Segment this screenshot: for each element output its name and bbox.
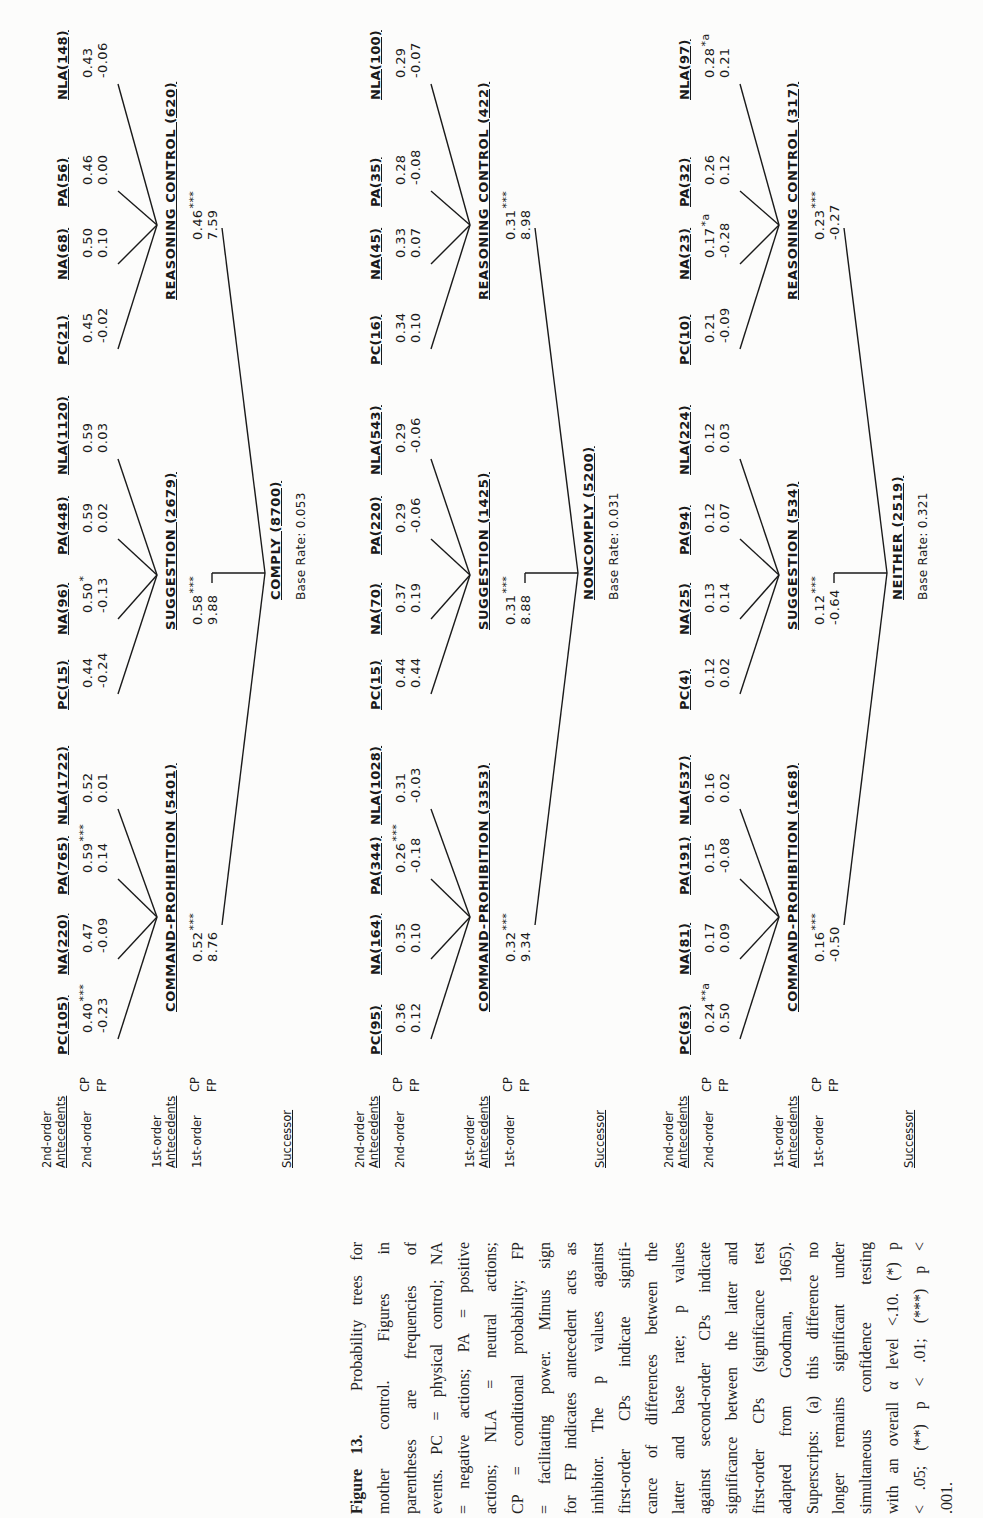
first-order-values: 0.12***-0.64	[808, 576, 842, 625]
cp-number: 0.52	[190, 931, 205, 962]
header-line: Antecedents	[164, 1096, 178, 1168]
cp-value: 0.31	[389, 767, 408, 803]
branch-line	[431, 879, 470, 917]
fp-value: -0.08	[717, 837, 732, 873]
fp-value: 0.44	[408, 656, 423, 688]
caption-line: events. PC = physical control; NA	[424, 1242, 451, 1514]
caption-line: for FP indicates antecedent acts as	[558, 1242, 585, 1514]
significance-superscript: *	[77, 576, 90, 582]
base-rate: Base Rate: 0.031	[607, 492, 621, 600]
second-order-values: 0.330.07	[389, 226, 423, 258]
branch-line	[740, 917, 779, 1039]
cp-value: 0.21	[698, 307, 717, 343]
first-order-values: 0.31***8.88	[499, 576, 533, 625]
cp-value: 0.43	[76, 42, 95, 78]
second-order-values: 0.440.44	[389, 656, 423, 688]
branch-line	[740, 191, 779, 225]
cp-number: 0.37	[393, 582, 408, 613]
fp-value: 0.19	[408, 581, 423, 613]
connector-line	[535, 573, 578, 925]
first-order-values: 0.23***-0.27	[808, 191, 842, 240]
second-order-antecedent-label: PA(344)	[368, 836, 383, 895]
cp-number: 0.40	[80, 1002, 95, 1033]
fp-value: 8.98	[518, 191, 533, 240]
second-order-values: 0.26***-0.18	[389, 824, 423, 873]
cp-value: 0.50	[76, 226, 95, 258]
first-order-antecedent-label: COMMAND-PROHIBITION (3353)	[476, 763, 491, 1012]
branch-line	[118, 809, 157, 917]
significance-superscript: ***	[77, 824, 90, 842]
second-order-antecedent-label: PC(15)	[368, 660, 383, 710]
cp-value: 0.12	[698, 501, 717, 533]
second-order-antecedent-label: NA(220)	[55, 914, 70, 975]
second-order-antecedent-label: PC(21)	[55, 315, 70, 365]
cp-number: 0.24	[702, 1002, 717, 1033]
significance-superscript: **a	[699, 983, 712, 1002]
first-order-values: 0.46***7.59	[186, 191, 220, 240]
second-order-values: 0.40***-0.23	[76, 984, 110, 1033]
cp-value: 0.58***	[186, 576, 205, 625]
cp-number: 0.31	[503, 209, 518, 240]
second-order-antecedent-label: PC(4)	[677, 669, 692, 710]
second-order-values: 0.590.03	[76, 421, 110, 453]
cp-value: 0.40***	[76, 984, 95, 1033]
successor-label: COMPLY (8700)	[268, 481, 283, 600]
cp-value: 0.12	[698, 421, 717, 453]
second-order-antecedent-label: NA(25)	[677, 583, 692, 635]
cp-number: 0.16	[812, 931, 827, 962]
header-line: Antecedents	[676, 1096, 690, 1168]
cp-number: 0.12	[812, 594, 827, 625]
caption-text: Probability trees for	[348, 1242, 365, 1405]
cp-number: 0.12	[702, 422, 717, 453]
second-order-antecedent-label: PA(448)	[55, 496, 70, 555]
cp-number: 0.17	[702, 227, 717, 258]
fp-row-label: FP	[717, 1078, 732, 1092]
cp-value: 0.52	[76, 771, 95, 803]
first-order-antecedents-header: 1st-orderAntecedents	[772, 1096, 800, 1168]
cp-number: 0.33	[393, 227, 408, 258]
branch-line	[740, 575, 779, 694]
cp-value: 0.26	[698, 153, 717, 185]
fp-value: 0.02	[717, 656, 732, 688]
branch-line	[431, 575, 470, 619]
caption-line: = facilitating power. Minus sign	[532, 1242, 559, 1514]
cp-value: 0.34	[389, 311, 408, 343]
cp-number: 0.12	[702, 502, 717, 533]
cp-row-label: CP	[700, 1077, 715, 1092]
header-line: 2nd-order	[40, 1096, 54, 1168]
cp-number: 0.28	[393, 154, 408, 185]
connector-line	[222, 573, 265, 925]
header-line: 2nd-order	[662, 1096, 676, 1168]
header-line: Antecedents	[54, 1096, 68, 1168]
header-line: 1st-order	[150, 1096, 164, 1168]
connector-line	[844, 228, 887, 573]
cp-value: 0.50*	[76, 576, 95, 613]
cp-number: 0.58	[190, 594, 205, 625]
first-order-antecedents-header: 1st-orderAntecedents	[463, 1096, 491, 1168]
cp-value: 0.26***	[389, 824, 408, 873]
fp-value: -0.06	[95, 42, 110, 78]
fp-value: 8.88	[518, 576, 533, 625]
cp-number: 0.28	[702, 47, 717, 78]
significance-superscript: ***	[187, 191, 200, 209]
cp-number: 0.31	[503, 594, 518, 625]
second-order-values: 0.340.10	[389, 311, 423, 343]
cp-value: 0.59***	[76, 824, 95, 873]
second-order-antecedent-label: NA(164)	[368, 914, 383, 975]
cp-value: 0.32***	[499, 913, 518, 962]
second-order-antecedent-label: PA(32)	[677, 157, 692, 207]
first-order-antecedent-label: COMMAND-PROHIBITION (5401)	[163, 763, 178, 1012]
significance-superscript: ***	[500, 191, 513, 209]
caption-line: Figure 13. Probability trees for	[344, 1242, 371, 1514]
fp-value: 8.76	[205, 913, 220, 962]
second-order-antecedent-label: PC(15)	[55, 660, 70, 710]
cp-value: 0.28*a	[698, 33, 717, 78]
first-order-values: 0.58***9.88	[186, 576, 220, 625]
second-order-antecedent-label: PC(105)	[55, 996, 70, 1056]
branch-line	[431, 84, 470, 225]
significance-superscript: ***	[500, 913, 513, 931]
header-line: Antecedents	[786, 1096, 800, 1168]
branch-line	[118, 879, 157, 917]
fp-value: -0.06	[408, 417, 423, 453]
cp-number: 0.21	[702, 312, 717, 343]
